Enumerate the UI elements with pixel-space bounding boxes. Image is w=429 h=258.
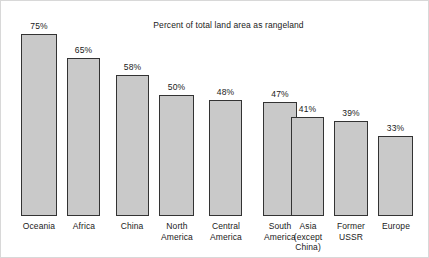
bar [209, 100, 242, 216]
bar-chart: Percent of total land area as rangeland … [0, 0, 429, 258]
bar-value-label: 39% [320, 108, 382, 118]
category-label: Europe [369, 217, 423, 258]
bar [159, 95, 194, 216]
category-label: CentralAmerica [195, 217, 257, 258]
category-label-line: Central [195, 221, 257, 232]
bar-value-label: 33% [364, 123, 427, 133]
bar-value-label: 75% [7, 21, 71, 31]
bar [67, 58, 100, 216]
category-label-line: Europe [369, 221, 423, 232]
bar [291, 117, 324, 216]
bar [116, 75, 149, 216]
plot-area: 75%Oceania65%Africa58%China50%NorthAmeri… [1, 1, 429, 258]
bar [21, 34, 57, 216]
bar [334, 121, 368, 216]
bar-value-label: 65% [53, 45, 114, 55]
bar-value-label: 48% [195, 87, 256, 97]
bar-value-label: 47% [249, 89, 311, 99]
bar-value-label: 58% [102, 62, 163, 72]
bar [378, 136, 413, 216]
category-label-line: America [195, 232, 257, 243]
